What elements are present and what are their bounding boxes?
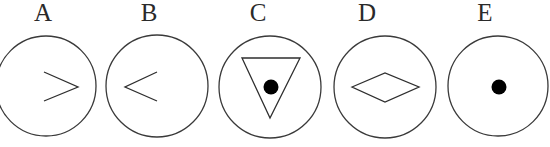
circle-a-icon <box>0 36 96 136</box>
option-figure: A B C D E <box>0 0 550 147</box>
option-a <box>0 36 96 136</box>
option-c <box>219 36 321 138</box>
option-b <box>106 35 208 137</box>
greater-than-chevron-icon <box>44 72 78 101</box>
dot-icon <box>264 80 279 95</box>
option-e <box>448 36 548 136</box>
circle-d-icon <box>334 36 436 138</box>
diamond-icon <box>352 73 419 102</box>
less-than-chevron-icon <box>125 72 157 101</box>
options-drawing <box>0 0 550 147</box>
circle-b-icon <box>106 35 208 137</box>
option-d <box>334 36 436 138</box>
dot-icon <box>492 80 507 95</box>
